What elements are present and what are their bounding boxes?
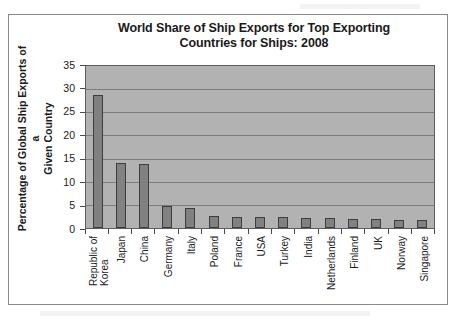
- x-tick-mark: [224, 229, 225, 234]
- chart-title: World Share of Ship Exports for Top Expo…: [65, 21, 443, 51]
- x-tick-mark: [178, 229, 179, 234]
- plot-area-wrapper: [85, 65, 435, 229]
- x-tick-mark: [154, 229, 155, 234]
- x-label-slot: USA: [248, 236, 271, 316]
- x-tick-slot: [108, 229, 131, 235]
- chart-title-line-2: Countries for Ships: 2008: [65, 36, 443, 51]
- bar[interactable]: [185, 208, 195, 228]
- x-axis-label: USA: [256, 236, 267, 257]
- x-tick-slot: [85, 229, 108, 235]
- y-tick-label: 0: [69, 224, 75, 235]
- x-axis-label: Japan: [116, 236, 127, 263]
- x-axis-label: Turkey: [279, 236, 290, 266]
- x-tick-mark: [341, 229, 342, 234]
- x-label-slot: Singapore: [412, 236, 435, 316]
- bar-slot: [341, 66, 364, 228]
- x-axis-ticks: [85, 229, 435, 235]
- bar[interactable]: [93, 95, 103, 228]
- bar[interactable]: [348, 219, 358, 228]
- x-tick-mark: [108, 229, 109, 234]
- y-tick-label: 15: [63, 153, 75, 164]
- x-label-slot: UK: [365, 236, 388, 316]
- x-axis-labels: Republic ofKoreaJapanChinaGermanyItalyPo…: [85, 236, 435, 316]
- bar[interactable]: [301, 218, 311, 228]
- bar[interactable]: [417, 220, 427, 228]
- x-label-slot: Turkey: [272, 236, 295, 316]
- x-axis-label: China: [139, 236, 150, 262]
- x-axis-label: Netherlands: [326, 236, 337, 290]
- x-tick-slot: [225, 229, 248, 235]
- bar-slot: [388, 66, 411, 228]
- bar[interactable]: [278, 217, 288, 228]
- x-tick-mark: [318, 229, 319, 234]
- x-tick-mark: [131, 229, 132, 234]
- x-axis-label: Finland: [349, 236, 360, 269]
- bar[interactable]: [209, 216, 219, 228]
- bar[interactable]: [162, 206, 172, 228]
- y-axis-ticks: 35302520151050: [53, 59, 79, 235]
- bar-slot: [179, 66, 202, 228]
- x-label-slot: Italy: [178, 236, 201, 316]
- bar[interactable]: [255, 217, 265, 228]
- x-axis-label: Poland: [209, 236, 220, 267]
- x-axis-label: Republic ofKorea: [88, 236, 99, 286]
- x-tick-slot: [202, 229, 225, 235]
- bar-slot: [86, 66, 109, 228]
- y-tick-label: 35: [63, 60, 75, 71]
- x-label-slot: Republic ofKorea: [85, 236, 108, 316]
- x-tick-mark: [85, 229, 86, 234]
- chart-title-line-1: World Share of Ship Exports for Top Expo…: [65, 21, 443, 36]
- bar-slot: [364, 66, 387, 228]
- bar-slot: [202, 66, 225, 228]
- bar-slot: [225, 66, 248, 228]
- x-tick-slot: [248, 229, 271, 235]
- bar-slot: [272, 66, 295, 228]
- x-tick-mark: [434, 229, 435, 234]
- bar-slot: [109, 66, 132, 228]
- x-tick-slot: [132, 229, 155, 235]
- x-label-slot: Poland: [202, 236, 225, 316]
- bar-slot: [248, 66, 271, 228]
- x-tick-mark: [411, 229, 412, 234]
- y-tick-label: 30: [63, 83, 75, 94]
- x-axis-label: Germany: [163, 236, 174, 277]
- bar[interactable]: [325, 218, 335, 228]
- x-axis-label: Norway: [396, 236, 407, 270]
- x-tick-mark: [388, 229, 389, 234]
- bar[interactable]: [394, 220, 404, 228]
- y-tick-label: 20: [63, 130, 75, 141]
- x-tick-mark: [364, 229, 365, 234]
- bar-slot: [318, 66, 341, 228]
- bar-slot: [295, 66, 318, 228]
- x-axis-label: France: [233, 236, 244, 267]
- bar[interactable]: [116, 163, 126, 228]
- x-tick-slot: [318, 229, 341, 235]
- x-label-slot: Germany: [155, 236, 178, 316]
- x-tick-slot: [365, 229, 388, 235]
- bar-slot: [411, 66, 434, 228]
- x-axis-label: UK: [373, 236, 384, 250]
- scan-artifact: [300, 4, 420, 9]
- x-tick-slot: [178, 229, 201, 235]
- bar[interactable]: [232, 217, 242, 228]
- x-tick-slot: [412, 229, 435, 235]
- chart-frame: World Share of Ship Exports for Top Expo…: [8, 14, 448, 305]
- bar-slot: [156, 66, 179, 228]
- bar-series: [86, 66, 434, 228]
- x-label-slot: India: [295, 236, 318, 316]
- x-tick-slot: [342, 229, 365, 235]
- x-tick-mark: [201, 229, 202, 234]
- x-label-slot: Japan: [108, 236, 131, 316]
- x-label-slot: Norway: [388, 236, 411, 316]
- bar[interactable]: [139, 164, 149, 228]
- bar[interactable]: [371, 219, 381, 228]
- y-tick-label: 25: [63, 106, 75, 117]
- x-label-slot: Netherlands: [318, 236, 341, 316]
- x-tick-mark: [248, 229, 249, 234]
- x-label-slot: China: [132, 236, 155, 316]
- y-axis-title: Percentage of Global Ship Exports of a G…: [16, 44, 55, 234]
- x-label-slot: Finland: [342, 236, 365, 316]
- y-tick-label: 5: [69, 200, 75, 211]
- x-axis-label: Italy: [186, 236, 197, 254]
- y-tick-label: 10: [63, 177, 75, 188]
